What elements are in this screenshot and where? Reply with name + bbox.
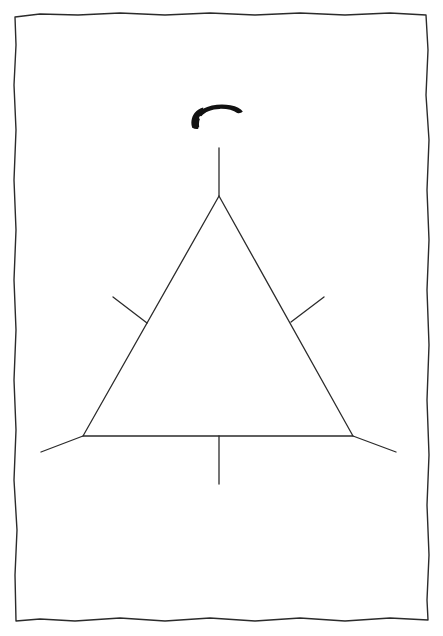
page-root: [0, 0, 443, 636]
emblem-hole-3: [217, 110, 222, 115]
emblem-hole-4: [223, 110, 228, 115]
emblem-hole-1: [205, 112, 209, 116]
page-background: [0, 0, 443, 636]
emblem-hole-7: [199, 116, 202, 119]
emblem-hole-6: [234, 113, 238, 117]
emblem-hole-5: [229, 111, 233, 115]
emblem-hole-2: [211, 111, 216, 116]
figure-canvas: [0, 0, 443, 636]
